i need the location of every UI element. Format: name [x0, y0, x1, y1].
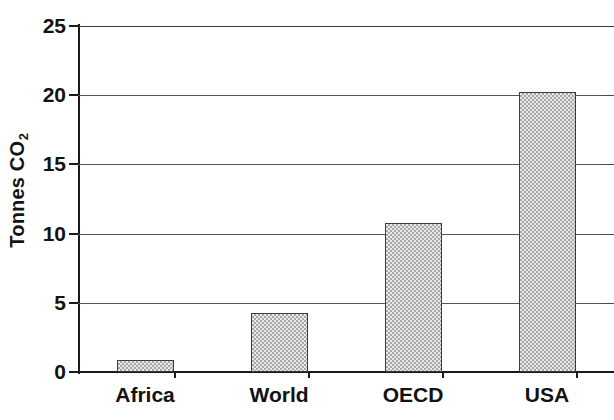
- x-tick-mark: [442, 371, 444, 378]
- y-tick-mark: [69, 233, 78, 235]
- y-tick-mark: [69, 94, 78, 96]
- right-edge-tick: [603, 234, 614, 235]
- bar-chart-figure: Tonnes CO2 0510152025 AfricaWorldOECDUSA: [0, 0, 614, 420]
- y-axis-title-subscript: 2: [16, 132, 31, 139]
- x-axis-label-oecd: OECD: [346, 384, 480, 405]
- right-edge-tick: [603, 303, 614, 304]
- y-tick-label: 15: [26, 153, 66, 174]
- x-tick-mark: [308, 371, 310, 378]
- y-tick-label: 10: [26, 223, 66, 244]
- x-axis-label-africa: Africa: [78, 384, 212, 405]
- bar-usa: [519, 92, 576, 372]
- bar-world: [251, 313, 308, 373]
- y-tick-mark: [69, 163, 78, 165]
- y-tick-label: 20: [26, 84, 66, 105]
- y-tick-mark: [69, 302, 78, 304]
- x-axis-label-usa: USA: [480, 384, 614, 405]
- gridline: [78, 26, 614, 27]
- x-axis-label-world: World: [212, 384, 346, 405]
- y-tick-mark: [69, 371, 78, 373]
- bar-oecd: [385, 223, 442, 372]
- y-tick-label: 0: [26, 361, 66, 382]
- plot-area: [78, 26, 614, 372]
- y-axis-title: Tonnes CO2: [0, 0, 34, 380]
- right-edge-tick: [603, 164, 614, 165]
- x-tick-mark: [174, 371, 176, 378]
- bar-africa: [117, 360, 174, 372]
- x-tick-mark: [576, 371, 578, 378]
- y-axis-title-base: Tonnes CO: [6, 140, 28, 247]
- y-tick-mark: [69, 25, 78, 27]
- right-edge-tick: [603, 95, 614, 96]
- y-tick-label: 5: [26, 292, 66, 313]
- y-tick-label: 25: [26, 15, 66, 36]
